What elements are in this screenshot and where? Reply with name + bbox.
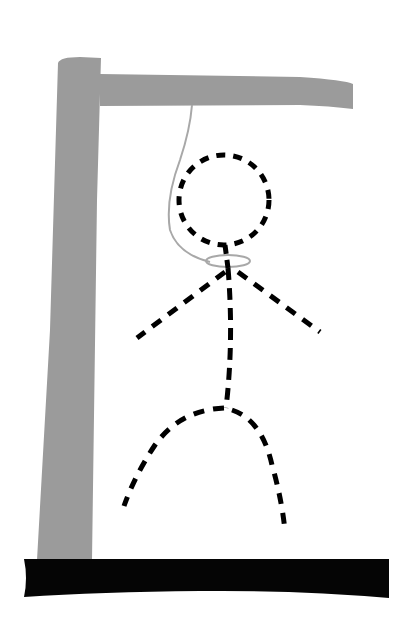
left-leg	[124, 408, 224, 506]
gallows-post	[37, 57, 101, 560]
head	[179, 155, 269, 245]
left-arm	[137, 272, 225, 338]
right-arm	[238, 272, 320, 332]
hangman-stage	[0, 0, 408, 638]
gallows-base	[24, 559, 389, 598]
body	[226, 268, 231, 408]
right-leg	[232, 410, 285, 531]
hangman-drawing	[0, 0, 408, 638]
gallows-beam	[100, 74, 353, 109]
neck	[225, 245, 228, 268]
